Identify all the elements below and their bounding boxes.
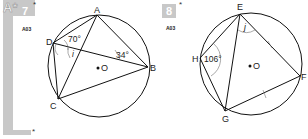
diagram-7 <box>48 15 150 117</box>
centre-O-8 <box>249 65 252 68</box>
label-O-8: O <box>253 61 260 71</box>
quad-DABC <box>53 15 148 99</box>
label-O-7: O <box>101 63 108 73</box>
angle-34: 34° <box>116 50 129 60</box>
angle-106: 106° <box>204 54 222 64</box>
circle-7 <box>48 15 150 117</box>
label-H: H <box>192 54 199 64</box>
label-E: E <box>237 2 243 12</box>
angle-j: j <box>243 22 247 32</box>
geometry-diagrams: A D B C O 70° 34° i E H F G O 106° j <box>0 0 308 139</box>
label-A: A <box>94 5 100 15</box>
centre-O-7 <box>97 67 100 70</box>
label-B: B <box>150 63 156 73</box>
angle-70: 70° <box>68 34 81 44</box>
angle-i: i <box>72 49 75 59</box>
circle-8 <box>200 13 302 115</box>
label-C: C <box>50 101 57 111</box>
label-D: D <box>46 37 53 47</box>
diagram-8 <box>200 13 302 115</box>
label-F: F <box>301 72 307 82</box>
label-G: G <box>222 114 229 124</box>
